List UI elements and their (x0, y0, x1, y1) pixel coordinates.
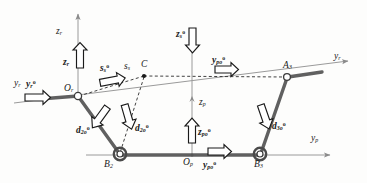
vector-label-zr: zr (63, 58, 69, 68)
point-label-C: C (141, 60, 147, 70)
point-label-B3: B3 (254, 160, 263, 170)
vector-label-ypo-top: ypoo (212, 56, 225, 66)
vector-label-yr: yro (26, 80, 36, 90)
joint-Or (74, 92, 81, 99)
axis-label-zr: zr (56, 27, 62, 37)
point-C (142, 74, 146, 78)
joint-A3 (284, 74, 291, 81)
axis-label-ss: ss (124, 62, 130, 72)
dashed-C-A3 (144, 76, 286, 77)
axis-label-yp: yp (311, 134, 318, 144)
point-Op (191, 154, 194, 157)
arrow-zr-vector (73, 43, 87, 69)
axis-label-yr-right: yr (334, 52, 341, 62)
joints (74, 74, 290, 161)
vector-label-zpo: zpoo (198, 128, 211, 138)
vector-label-d2o-a: d2oo (76, 126, 90, 136)
joint-B3-inner (257, 151, 263, 157)
vector-label-zs: zso (176, 30, 185, 40)
vector-label-d3o: d3oo (272, 122, 286, 132)
figure-canvas: zr yr yr zp yp Or Op C A3 B2 B3 zr yro s… (0, 0, 367, 183)
axis-label-zp: zp (199, 98, 206, 108)
vector-label-ypo-bottom: ypoo (203, 161, 216, 171)
point-label-B2: B2 (104, 160, 113, 170)
arrow-zpo-vector (185, 118, 199, 143)
point-label-A3: A3 (283, 61, 292, 71)
joint-B2-inner (117, 151, 123, 157)
vector-arrows (25, 28, 276, 159)
point-label-Op: Op (183, 158, 193, 168)
mechanism-links (40, 72, 322, 155)
arrow-zs-vector (186, 28, 200, 53)
point-label-Or: Or (64, 84, 73, 94)
vector-label-ss: sso (100, 64, 109, 74)
link-A3-tip (288, 72, 322, 77)
axis-label-yr-left: yr (14, 79, 21, 89)
vector-label-d2o-b: d2oo (135, 124, 149, 134)
arrow-yr-vector (25, 91, 51, 105)
